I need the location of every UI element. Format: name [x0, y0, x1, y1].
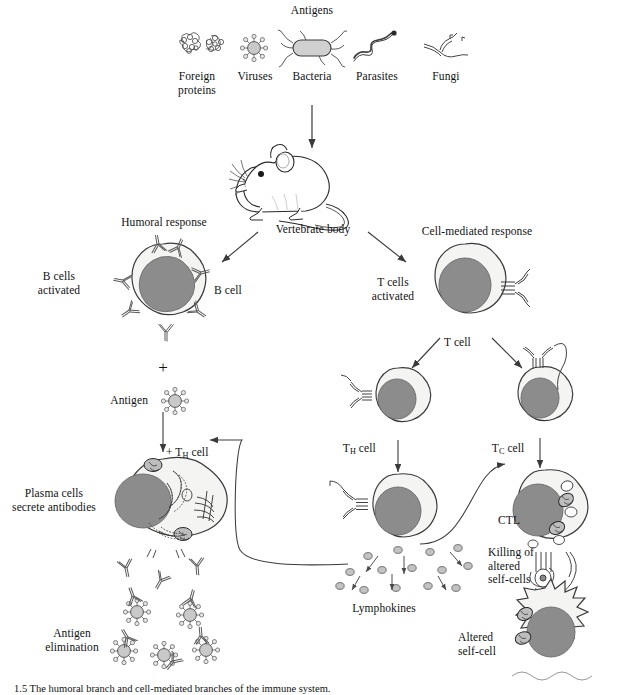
lymphokines-graphic	[336, 545, 472, 594]
foreign-proteins-icon	[180, 33, 224, 54]
bacteria-icon	[278, 30, 347, 67]
immune-system-diagram: Antigens Foreign proteins Viruses Bacter…	[0, 0, 624, 695]
plus-th-cell-label: + TH cell	[160, 432, 208, 460]
arrow-lymphokine-feedback	[210, 440, 348, 565]
th-cell-lower-graphic	[330, 474, 437, 537]
antigen-label-fungi: Fungi	[417, 70, 475, 84]
arrow-tcell-to-th	[412, 338, 440, 368]
vertebrate-body-label: Vertebrate body	[259, 223, 367, 237]
mouse-icon	[229, 145, 348, 231]
arrow-tcell-to-tc	[492, 338, 522, 368]
b-cells-activated-label: B cells activated	[28, 270, 90, 297]
altered-self-cell-label: Altered self-cell	[458, 631, 496, 658]
antigen-elimination-label: Antigen elimination	[36, 627, 108, 654]
antigen-graphic	[161, 387, 188, 414]
th-cell-pre: T	[343, 442, 350, 454]
plus-symbol: +	[150, 358, 176, 378]
free-antibodies-graphic	[117, 557, 205, 592]
figure-title: Antigens	[262, 4, 362, 18]
antigen-label: Antigen	[92, 394, 148, 408]
antigen-elimination-graphic	[110, 585, 219, 674]
tc-cell-pre: T	[492, 442, 499, 454]
ctl-label: CTL	[498, 514, 520, 528]
antigen-label-foreign-proteins: Foreign proteins	[166, 70, 228, 97]
th-cell-label: TH cell	[337, 428, 376, 456]
antigen-label-parasites: Parasites	[345, 70, 409, 84]
th-cell-post: cell	[356, 442, 376, 454]
arrow-to-humoral	[222, 232, 258, 262]
lymphokines-label: Lymphokines	[340, 602, 428, 616]
t-cell-graphic	[435, 243, 530, 313]
plasma-cell-graphic	[115, 457, 227, 558]
arrow-to-cell-mediated	[368, 232, 406, 262]
antigen-label-viruses: Viruses	[224, 70, 286, 84]
parasite-icon	[354, 30, 397, 61]
t-cells-activated-label: T cells activated	[362, 276, 424, 303]
b-cell-label: B cell	[214, 284, 242, 298]
tc-cell-label: TC cell	[486, 428, 524, 456]
decorative-squiggle	[512, 672, 592, 680]
tc-cell-graphic	[518, 343, 573, 420]
b-cell-graphic	[112, 234, 212, 342]
virus-icon	[240, 34, 267, 61]
plasma-cells-label: Plasma cells secrete antibodies	[6, 487, 102, 514]
plus-th-cell-pre: + T	[166, 446, 182, 458]
plus-th-cell-post: cell	[188, 446, 208, 458]
ctl-cell-graphic	[513, 470, 588, 548]
th-cell-graphic	[341, 368, 431, 422]
antigen-label-bacteria: Bacteria	[281, 70, 343, 84]
fungi-icon	[424, 33, 468, 57]
humoral-response-label: Humoral response	[108, 216, 220, 230]
cell-mediated-response-label: Cell-mediated response	[412, 225, 542, 239]
tc-cell-post: cell	[504, 442, 524, 454]
figure-caption: 1.5 The humoral branch and cell-mediated…	[14, 683, 330, 695]
diagram-canvas	[0, 0, 624, 695]
t-cell-label: T cell	[444, 336, 471, 350]
altered-self-cell-graphic	[513, 579, 588, 657]
killing-label: Killing of altered self-cells	[488, 546, 534, 587]
